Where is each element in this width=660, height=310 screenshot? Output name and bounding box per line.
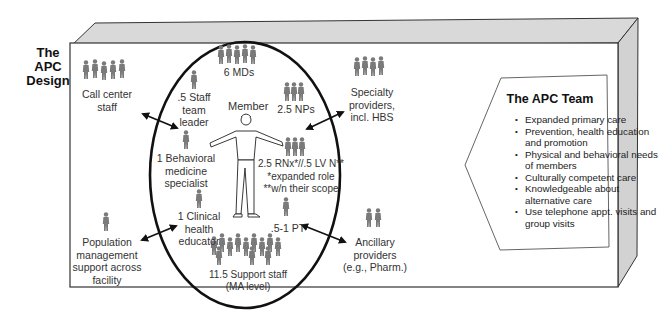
label-line: staff: [76, 101, 138, 114]
member-label: Member: [228, 100, 268, 113]
label-line: (MA level): [206, 281, 290, 293]
team-item: Prevention, health education and promoti…: [515, 126, 660, 149]
title-line-3: Design: [26, 74, 70, 88]
diagram-title: The APC Design: [26, 46, 70, 88]
title-line-1: The: [26, 46, 70, 60]
role-mds: 6 MDs: [212, 66, 266, 79]
team-box-list: Expanded primary care Prevention, health…: [515, 114, 660, 229]
label-line: specialist: [152, 177, 220, 190]
team-item-text: Prevention, health education and promoti…: [525, 126, 660, 149]
label-line: incl. HBS: [344, 111, 400, 124]
label-line: educator: [170, 235, 228, 248]
role-rns: 2.5 RNx*//.5 LV N** *expanded role **w/n…: [253, 158, 349, 196]
label-line: team: [168, 104, 220, 117]
team-item-text: Physical and behavioral needs of members: [525, 149, 660, 172]
label-line: support across: [72, 261, 142, 274]
role-pt: .5-1 PT: [266, 222, 310, 235]
role-behavioral: 1 Behavioral medicine specialist: [152, 152, 220, 190]
role-call-center: Call center staff: [76, 88, 138, 113]
role-pt-label: .5-1 PT: [271, 222, 305, 234]
label-line: leader: [168, 116, 220, 129]
title-line-2: APC: [26, 60, 70, 74]
label-line: 11.5 Support staff: [206, 269, 290, 281]
role-staff-team-leader: .5 Staff team leader: [168, 91, 220, 129]
team-box-title: The APC Team: [480, 92, 620, 106]
role-mds-label: 6 MDs: [224, 66, 254, 78]
role-clinical-educator: 1 Clinical health educator: [170, 210, 228, 248]
label-line: 2.5 RNx*//.5 LV N**: [253, 158, 349, 171]
label-line: (e.g., Pharm.): [340, 261, 410, 274]
label-line: Population: [72, 236, 142, 249]
role-specialty: Specialty providers, incl. HBS: [344, 86, 400, 124]
role-nps: 2.5 NPs: [274, 103, 318, 116]
team-item-text: Use telephone appt. visits and group vis…: [525, 206, 660, 229]
role-nps-label: 2.5 NPs: [277, 103, 314, 115]
team-item: Knowledgeable about alternative care: [515, 183, 660, 206]
label-line: 1 Clinical: [170, 210, 228, 223]
label-line: providers: [340, 249, 410, 262]
role-population: Population management support across fac…: [72, 236, 142, 286]
team-item-text: Culturally competent care: [525, 172, 660, 184]
role-support-staff: 11.5 Support staff (MA level): [206, 269, 290, 292]
label-line: health: [170, 223, 228, 236]
label-line: Ancillary: [340, 236, 410, 249]
team-item-text: Expanded primary care: [525, 114, 660, 126]
member-label-text: Member: [228, 100, 268, 112]
label-line: management: [72, 249, 142, 262]
label-line: facility: [72, 274, 142, 287]
label-line: **w/n their scope: [253, 183, 349, 196]
team-item: Physical and behavioral needs of members: [515, 149, 660, 172]
label-line: .5 Staff: [168, 91, 220, 104]
team-item: Use telephone appt. visits and group vis…: [515, 206, 660, 229]
label-line: medicine: [152, 165, 220, 178]
label-line: *expanded role: [253, 171, 349, 184]
team-item: Expanded primary care: [515, 114, 660, 126]
label-line: Specialty: [344, 86, 400, 99]
role-ancillary: Ancillary providers (e.g., Pharm.): [340, 236, 410, 274]
label-line: providers,: [344, 99, 400, 112]
team-item: Culturally competent care: [515, 172, 660, 184]
label-line: 1 Behavioral: [152, 152, 220, 165]
team-item-text: Knowledgeable about alternative care: [525, 183, 660, 206]
label-line: Call center: [76, 88, 138, 101]
